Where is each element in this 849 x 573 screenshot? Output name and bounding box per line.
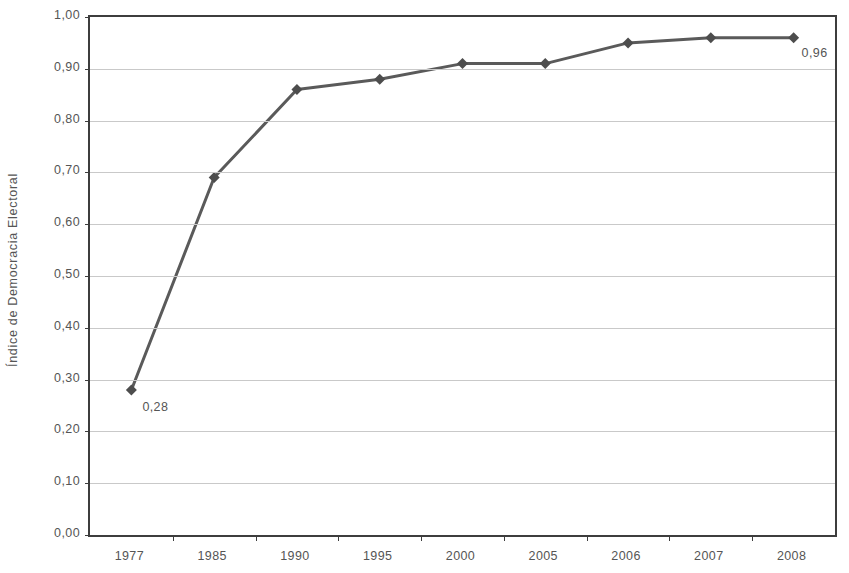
gridline xyxy=(90,69,835,70)
x-axis-tick-label: 1985 xyxy=(197,549,226,563)
x-axis-tick-label: 2005 xyxy=(529,549,558,563)
gridline xyxy=(90,224,835,225)
x-axis-tick-label: 2007 xyxy=(694,549,723,563)
data-point-marker xyxy=(623,37,634,48)
x-axis-tick-label: 1990 xyxy=(280,549,309,563)
y-axis-tick-mark xyxy=(85,17,90,18)
y-axis-tick-labels: 0,000,100,200,300,400,500,600,700,800,90… xyxy=(26,0,86,545)
data-point-marker xyxy=(457,58,468,69)
x-axis-tick-labels: 197719851990199520002005200620072008 xyxy=(88,541,837,571)
gridline xyxy=(90,276,835,277)
y-axis-tick-label: 0,30 xyxy=(54,371,80,385)
y-axis-tick-label: 0,40 xyxy=(54,319,80,333)
y-axis-tick-label: 0,50 xyxy=(54,267,80,281)
gridline xyxy=(90,172,835,173)
y-axis-tick-label: 0,60 xyxy=(54,215,80,229)
data-point-label: 0,28 xyxy=(142,400,168,414)
data-point-marker xyxy=(540,58,551,69)
x-axis-tick-label: 2006 xyxy=(611,549,640,563)
y-axis-tick-label: 0,80 xyxy=(54,112,80,126)
gridline xyxy=(90,121,835,122)
gridline xyxy=(90,328,835,329)
data-point-marker xyxy=(126,384,137,395)
y-axis-title-text: Índice de Democracia Electoral xyxy=(6,173,20,367)
gridline xyxy=(90,483,835,484)
chart-container: Índice de Democracia Electoral 0,000,100… xyxy=(0,0,849,573)
data-point-label: 0,96 xyxy=(802,46,828,60)
data-point-marker xyxy=(374,74,385,85)
series-line xyxy=(131,38,793,390)
y-axis-tick-label: 1,00 xyxy=(54,8,80,22)
y-axis-tick-label: 0,90 xyxy=(54,60,80,74)
x-axis-tick-label: 2008 xyxy=(777,549,806,563)
data-point-marker xyxy=(705,32,716,43)
x-axis-tick-label: 2000 xyxy=(446,549,475,563)
gridline xyxy=(90,431,835,432)
y-axis-tick-label: 0,70 xyxy=(54,163,80,177)
x-axis-tick-label: 1995 xyxy=(363,549,392,563)
y-axis-tick-label: 0,20 xyxy=(54,422,80,436)
y-axis-tick-label: 0,10 xyxy=(54,474,80,488)
gridline xyxy=(90,380,835,381)
y-axis-title: Índice de Democracia Electoral xyxy=(0,0,26,540)
y-axis-tick-label: 0,00 xyxy=(54,526,80,540)
y-axis-tick-mark xyxy=(85,535,90,536)
x-axis-tick-label: 1977 xyxy=(115,549,144,563)
plot-area: 0,280,96 xyxy=(88,15,837,537)
data-point-marker xyxy=(788,32,799,43)
